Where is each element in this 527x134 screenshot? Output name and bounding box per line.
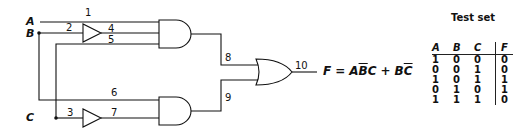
- eq-term2-b: B: [395, 64, 404, 78]
- buffer-gate-1: [83, 24, 101, 42]
- wire-label-5: 5: [108, 35, 114, 45]
- cell: 1: [432, 95, 453, 105]
- buffer-gate-2: [83, 109, 101, 127]
- wire-label-7: 7: [111, 108, 117, 118]
- and-gate-1: [159, 20, 191, 48]
- cell: 0: [496, 95, 514, 105]
- eq-term1-a: A: [349, 64, 358, 78]
- wire-label-9: 9: [225, 93, 231, 103]
- input-label-c: C: [26, 112, 34, 123]
- wire-label-8: 8: [225, 53, 231, 63]
- eq-plus: +: [381, 64, 391, 78]
- or-gate: [256, 59, 292, 85]
- wire-label-3: 3: [67, 108, 73, 118]
- header-c: C: [474, 42, 496, 55]
- cell: 1: [474, 95, 496, 105]
- test-set-title: Test set: [451, 12, 495, 23]
- eq-term1-c: C: [368, 64, 377, 78]
- wire-label-6: 6: [111, 88, 117, 98]
- eq-equals: =: [335, 64, 345, 78]
- eq-term2-c-bar: C: [404, 64, 413, 78]
- junction-dot-c: [54, 116, 58, 120]
- header-f: F: [496, 42, 514, 55]
- input-label-b: B: [26, 28, 34, 39]
- eq-term1-b-bar: B: [359, 64, 368, 78]
- and-gate-2: [159, 97, 191, 125]
- wire-label-10: 10: [295, 61, 308, 71]
- eq-lhs: F: [323, 64, 331, 78]
- junction-dot-b: [37, 31, 41, 35]
- test-set-header-row: A B C F: [432, 42, 513, 55]
- wire-label-4: 4: [108, 24, 114, 34]
- wire-label-2: 2: [66, 23, 72, 33]
- test-set-row: 1 1 1 0: [432, 95, 513, 105]
- test-set-table: A B C F 1 0 0 0 0 0 1 0 1 0 1 1 0 1 0 1: [432, 42, 513, 105]
- output-equation: F=ABC+BC: [323, 64, 413, 78]
- cell: 1: [453, 95, 474, 105]
- header-a: A: [432, 42, 453, 55]
- wire-6: [39, 33, 159, 100]
- header-b: B: [453, 42, 474, 55]
- wire-label-1: 1: [85, 8, 91, 18]
- input-label-a: A: [26, 16, 35, 27]
